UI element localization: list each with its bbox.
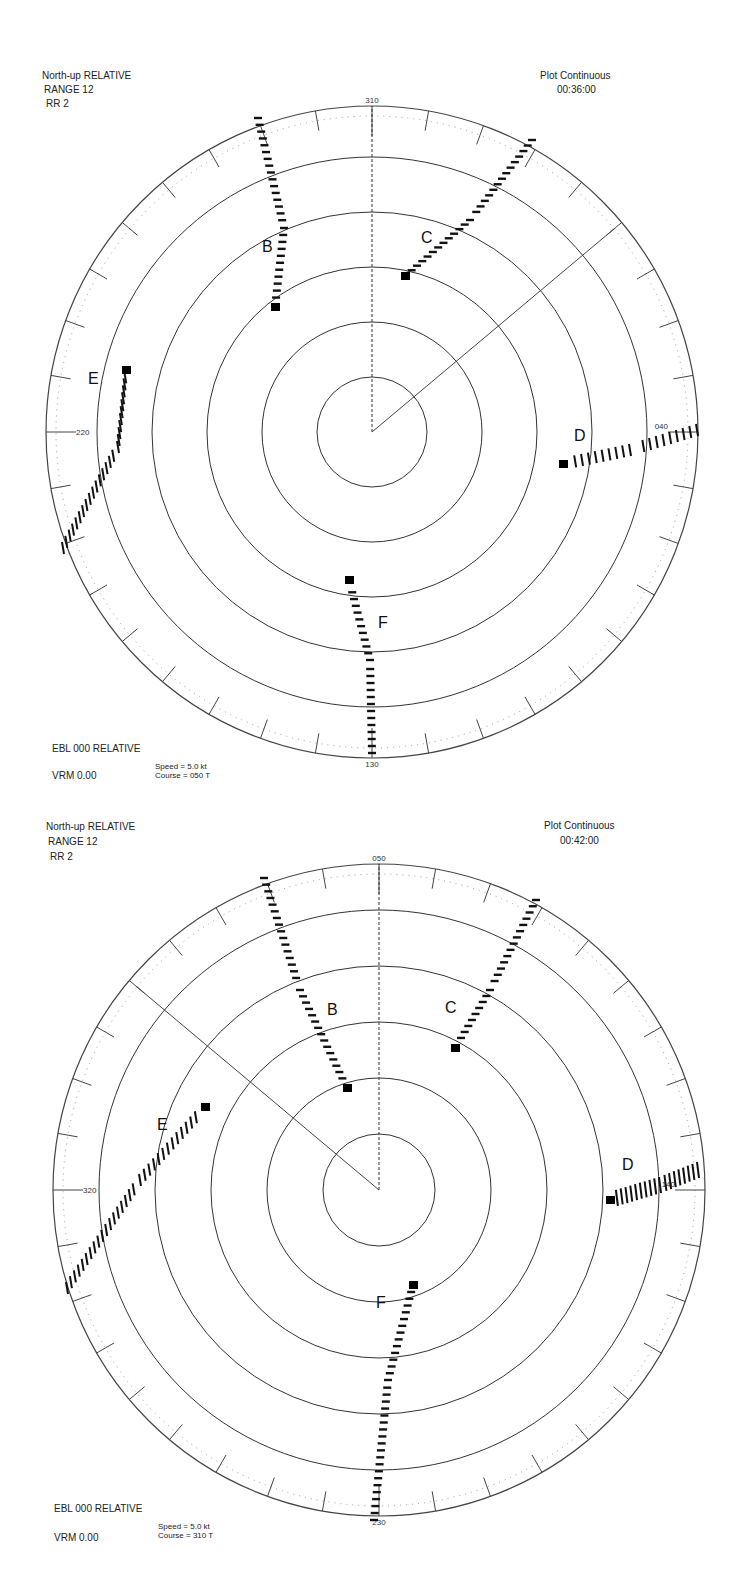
target-F[interactable]: F	[345, 576, 388, 753]
track-mark	[645, 1181, 647, 1197]
bearing-tick	[432, 1491, 435, 1511]
track-mark	[574, 455, 576, 467]
track-mark	[93, 1241, 95, 1253]
track-mark	[662, 434, 664, 446]
track-mark	[78, 1265, 80, 1277]
track-mark	[649, 438, 651, 450]
track-mark	[133, 1183, 135, 1195]
track-mark	[102, 468, 104, 480]
target-F[interactable]: F	[370, 1281, 418, 1520]
target-label: C	[445, 999, 457, 1016]
target-E[interactable]: E	[66, 1103, 210, 1294]
track-mark	[121, 1201, 123, 1213]
target-marker[interactable]	[409, 1281, 418, 1289]
target-D[interactable]: D	[606, 1156, 699, 1206]
bearing-tick	[169, 940, 182, 955]
bearing-tick	[209, 150, 219, 167]
track-mark	[630, 1186, 632, 1202]
bearing-tick	[477, 720, 484, 739]
track-mark	[688, 1166, 690, 1182]
track-mark	[616, 1190, 618, 1206]
bearing-tick	[576, 940, 589, 955]
track-mark	[172, 1137, 174, 1149]
bearing-tick	[673, 485, 693, 488]
target-B[interactable]: B	[260, 878, 352, 1092]
track-mark	[190, 1116, 192, 1128]
course-line	[137, 987, 379, 1190]
target-label: F	[378, 614, 388, 631]
track-mark	[181, 1127, 183, 1139]
radar-display[interactable]: 310130220040BCDEF050230320140BCDEF	[0, 0, 753, 1590]
bearing-tick	[268, 1478, 275, 1497]
bearing-tick	[425, 733, 428, 753]
target-marker[interactable]	[451, 1044, 460, 1052]
bearing-tick	[569, 666, 582, 681]
track-mark	[105, 1224, 107, 1236]
track-mark	[106, 462, 108, 474]
target-C[interactable]: C	[445, 900, 540, 1052]
track-mark	[581, 454, 583, 466]
bearing-tick	[73, 1295, 92, 1302]
track-mark	[176, 1132, 178, 1144]
track-mark	[683, 1168, 685, 1184]
bearing-tick	[673, 375, 693, 378]
track-mark	[621, 1188, 623, 1204]
bearing-tick	[606, 629, 621, 642]
track-mark	[69, 530, 71, 542]
bearing-tick	[637, 585, 654, 595]
bearing-tick	[97, 1027, 114, 1037]
target-B[interactable]: B	[254, 118, 288, 311]
bearing-label: 050	[372, 854, 386, 863]
bearing-tick	[680, 1133, 700, 1136]
bearing-tick	[525, 150, 535, 167]
target-label: E	[88, 370, 99, 387]
track-mark	[608, 448, 610, 460]
track-mark	[144, 1169, 146, 1181]
target-marker[interactable]	[201, 1103, 210, 1111]
target-label: D	[622, 1156, 634, 1173]
track-mark	[640, 1183, 642, 1199]
bearing-tick	[58, 1133, 78, 1136]
track-mark	[79, 511, 81, 523]
target-marker[interactable]	[345, 576, 354, 584]
radar-plot-2: 050230320140BCDEF	[53, 854, 705, 1527]
bearing-tick	[90, 269, 107, 279]
track-mark	[125, 1195, 127, 1207]
bearing-tick	[90, 585, 107, 595]
target-marker[interactable]	[401, 272, 410, 280]
track-mark	[75, 517, 77, 529]
target-marker[interactable]	[122, 366, 131, 374]
track-mark	[588, 453, 590, 465]
track-mark	[148, 1164, 150, 1176]
bearing-label: 040	[655, 422, 669, 431]
track-mark	[689, 426, 691, 438]
bearing-tick	[209, 697, 219, 714]
target-marker[interactable]	[559, 460, 568, 468]
track-mark	[129, 1189, 131, 1201]
target-label: D	[574, 427, 586, 444]
track-mark	[195, 1111, 197, 1123]
bearing-tick	[680, 1243, 700, 1246]
track-mark	[649, 1180, 651, 1196]
bearing-tick	[261, 720, 268, 739]
track-mark	[117, 1207, 119, 1219]
target-E[interactable]: E	[62, 366, 131, 554]
bearing-tick	[261, 126, 268, 145]
target-D[interactable]: D	[559, 424, 698, 468]
target-marker[interactable]	[606, 1196, 615, 1204]
target-marker[interactable]	[271, 303, 280, 311]
bearing-tick	[660, 321, 679, 328]
track-mark	[656, 436, 658, 448]
track-mark	[82, 1259, 84, 1271]
track-mark	[65, 536, 67, 548]
track-mark	[654, 1178, 656, 1194]
track-mark	[595, 451, 597, 463]
target-marker[interactable]	[343, 1084, 352, 1092]
track-mark	[86, 1253, 88, 1265]
bearing-label: 140	[662, 1180, 676, 1189]
track-mark	[66, 1282, 68, 1294]
bearing-tick	[51, 485, 71, 488]
bearing-tick	[58, 1243, 78, 1246]
bearing-tick	[66, 537, 85, 544]
track-mark	[692, 1164, 694, 1180]
